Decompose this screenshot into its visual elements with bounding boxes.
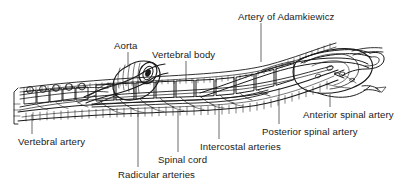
label-radicular-arteries: Radicular arteries — [118, 169, 195, 180]
label-spinal-cord: Spinal cord — [158, 154, 207, 165]
radicular-arteries-branches — [36, 101, 243, 114]
label-vertebral-artery: Vertebral artery — [18, 136, 85, 147]
label-aorta: Aorta — [114, 40, 137, 51]
label-posterior-spinal-artery: Posterior spinal artery — [262, 126, 358, 137]
anatomical-figure: Aorta Vertebral body Artery of Adamkiewi… — [0, 0, 416, 196]
label-anterior-spinal-artery: Anterior spinal artery — [303, 109, 394, 120]
adamkiewicz-artery — [200, 48, 384, 97]
cervical-cut-end — [14, 88, 20, 124]
label-artery-of-adamkiewicz: Artery of Adamkiewicz — [238, 11, 334, 22]
label-vertebral-body: Vertebral body — [152, 49, 215, 60]
label-intercostal-arteries: Intercostal arteries — [200, 141, 281, 152]
spinal-artery-illustration — [0, 0, 416, 196]
